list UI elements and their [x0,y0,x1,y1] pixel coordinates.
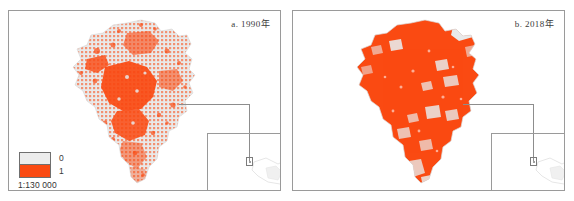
map-scale-text: 1:130 000 [18,180,57,190]
inset-map-1990 [207,133,281,191]
locator-box-2018 [530,157,537,166]
legend-swatch-0 [19,152,51,165]
legend-label-1: 1 [59,166,64,176]
map-legend: 0 1 1:130 000 [17,152,89,182]
legend-label-0: 0 [59,153,64,163]
inset-region-outline-2018 [492,134,565,191]
inset-map-2018 [491,133,565,191]
figure-canvas: a. 1990年 [0,0,574,201]
legend-swatch-1 [19,165,51,178]
map-panel-2018: b. 2018年 [292,10,565,191]
locator-dot-1990 [249,161,251,163]
inset-region-outline-1990 [208,134,281,191]
leader-line-horizontal-2018 [463,104,533,105]
locator-dot-2018 [533,161,535,163]
map-panel-1990: a. 1990年 [8,10,281,191]
legend-swatches: 0 1 1:130 000 [17,152,87,182]
leader-line-horizontal-1990 [179,104,249,105]
locator-box-1990 [246,157,253,166]
